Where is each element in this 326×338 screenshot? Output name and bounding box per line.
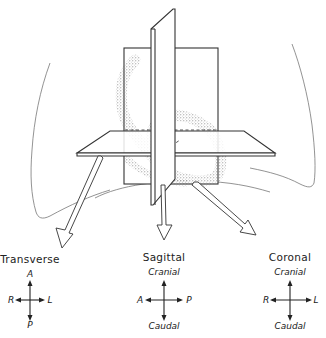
- svg-text:Caudal: Caudal: [274, 321, 306, 331]
- legend-title: Sagittal: [143, 251, 186, 263]
- svg-text:R: R: [263, 295, 269, 305]
- svg-text:L: L: [313, 295, 318, 305]
- svg-text:A: A: [136, 295, 143, 305]
- legend-title: Coronal: [269, 251, 311, 263]
- coronal-pointer-arrow: [192, 182, 256, 235]
- legend-sagittal: Sagittal Cranial Caudal A P: [136, 251, 192, 331]
- transverse-plane: [77, 131, 275, 156]
- svg-text:A: A: [26, 269, 33, 279]
- svg-text:P: P: [186, 295, 192, 305]
- transverse-pointer-arrow: [56, 156, 103, 248]
- sagittal-plane: [151, 9, 175, 205]
- anatomical-planes-diagram: Transverse A P R L Sagittal Cranial Caud…: [0, 0, 326, 338]
- legend-transverse: Transverse A P R L: [0, 253, 60, 330]
- svg-text:Cranial: Cranial: [274, 267, 306, 277]
- legend-coronal: Coronal Cranial Caudal R L: [263, 251, 319, 331]
- svg-text:Cranial: Cranial: [148, 267, 180, 277]
- svg-text:L: L: [47, 295, 52, 305]
- svg-text:Caudal: Caudal: [148, 321, 180, 331]
- legend-title: Transverse: [0, 253, 60, 265]
- svg-text:R: R: [8, 295, 14, 305]
- svg-text:P: P: [27, 320, 33, 330]
